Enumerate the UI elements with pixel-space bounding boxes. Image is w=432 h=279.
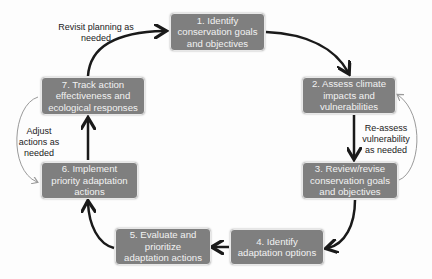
arrow-1-to-2: [266, 32, 348, 72]
step-5-label: 5. Evaluate and prioritize adaptation ac…: [124, 229, 202, 264]
step-7-box: 7. Track action effectiveness and ecolog…: [41, 77, 145, 115]
step-6-label: 6. Implement priority adaptation actions: [51, 163, 127, 198]
step-1-box: 1. Identify conservation goals and objec…: [170, 13, 265, 51]
step-4-box: 4. Identify adaptation options: [230, 229, 324, 265]
step-2-box: 2. Assess climate impacts and vulnerabil…: [302, 77, 396, 114]
step-2-label: 2. Assess climate impacts and vulnerabil…: [312, 78, 386, 113]
step-3-box: 3. Review/revise conservation goals and …: [302, 162, 398, 199]
arrow-3-to-4: [328, 200, 355, 248]
step-4-label: 4. Identify adaptation options: [238, 236, 316, 259]
step-3-label: 3. Review/revise conservation goals and …: [310, 163, 390, 198]
step-1-label: 1. Identify conservation goals and objec…: [178, 15, 258, 50]
note-revisit-planning: Revisit planning as needed: [56, 22, 136, 44]
adaptation-cycle-diagram: 1. Identify conservation goals and objec…: [0, 0, 432, 279]
note-adjust-actions: Adjust actions as needed: [14, 126, 64, 159]
step-5-box: 5. Evaluate and prioritize adaptation ac…: [115, 228, 211, 265]
arrow-5-to-6: [88, 203, 114, 248]
step-6-box: 6. Implement priority adaptation actions: [41, 162, 138, 199]
note-reassess-vulnerability: Re-assess vulnerability as needed: [356, 123, 416, 156]
step-7-label: 7. Track action effectiveness and ecolog…: [48, 79, 138, 114]
